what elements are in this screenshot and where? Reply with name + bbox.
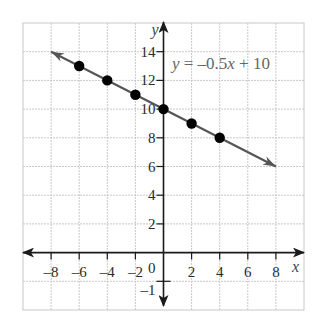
data-point	[74, 61, 84, 71]
data-point	[158, 104, 168, 114]
origin-label: 0	[148, 260, 156, 276]
y-tick-label: 4	[148, 187, 156, 203]
y-tick-label-extra: –1	[140, 282, 156, 298]
data-point	[102, 75, 112, 85]
x-tick-label: 6	[244, 264, 252, 280]
x-tick-label: –2	[127, 264, 143, 280]
data-point	[130, 90, 140, 100]
equation-part-const: + 10	[235, 54, 270, 73]
x-tick-label: 8	[272, 264, 280, 280]
equation-part-y: y	[170, 54, 180, 73]
y-axis-label: y	[150, 21, 160, 39]
coordinate-plane-chart: –8–6–4–224682468101214–10 y x y = –0.5x …	[0, 0, 316, 325]
equation-part-coef: = –0.5	[179, 54, 227, 73]
y-tick-label: 12	[141, 72, 156, 88]
x-axis-label: x	[291, 258, 299, 275]
tick-labels: –8–6–4–224682468101214–10	[43, 44, 280, 299]
equation-annotation: y = –0.5x + 10	[170, 54, 270, 73]
y-tick-label: 8	[148, 130, 156, 146]
y-tick-label: 2	[148, 216, 156, 232]
y-tick-label: 6	[148, 159, 156, 175]
x-tick-label: 4	[216, 264, 224, 280]
data-point	[186, 118, 196, 128]
x-tick-label: –4	[99, 264, 116, 280]
y-tick-label: 14	[141, 44, 157, 60]
data-point	[215, 133, 225, 143]
x-tick-label: 2	[188, 264, 196, 280]
x-tick-label: –6	[71, 264, 88, 280]
x-tick-label: –8	[43, 264, 59, 280]
